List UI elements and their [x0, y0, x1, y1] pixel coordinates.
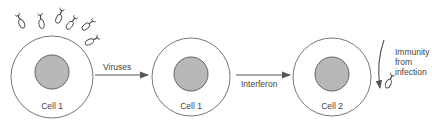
- label-immunity-line2: from: [395, 57, 439, 67]
- virus-icon: [81, 18, 96, 32]
- arrow-immunity: [379, 40, 384, 88]
- label-viruses: Viruses: [103, 62, 131, 72]
- label-interferon: Interferon: [241, 79, 277, 89]
- label-cell-1-infected: Cell 1: [32, 101, 72, 111]
- virus-icon: [84, 34, 100, 46]
- virus-icon: [37, 13, 44, 29]
- virus-icon: [55, 8, 65, 24]
- cell-nucleus: [174, 57, 208, 91]
- label-cell-1-producing: Cell 1: [171, 101, 211, 111]
- cell-nucleus: [315, 57, 349, 91]
- label-immunity-line1: Immunity: [395, 47, 439, 57]
- label-immunity-line3: infection: [395, 67, 439, 77]
- virus-icon: [65, 15, 78, 31]
- label-cell-2: Cell 2: [312, 101, 352, 111]
- cell-nucleus: [35, 55, 69, 89]
- virus-icon: [15, 13, 26, 29]
- repelled-virus-icon: [384, 73, 395, 89]
- label-immunity: Immunity from infection: [395, 47, 439, 77]
